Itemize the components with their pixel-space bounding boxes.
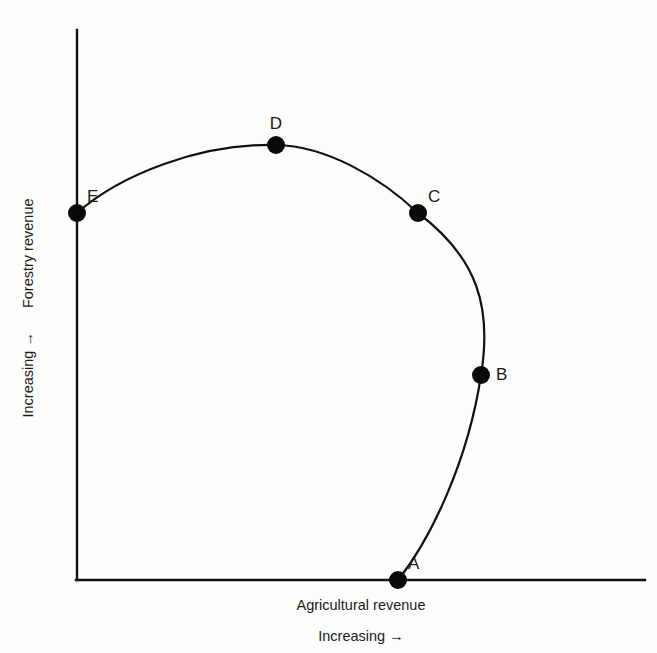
data-point-a bbox=[389, 571, 407, 589]
data-point-label-d: D bbox=[270, 114, 282, 133]
data-point-b bbox=[472, 366, 490, 384]
data-point-c bbox=[409, 204, 427, 222]
data-point-e bbox=[68, 204, 86, 222]
chart-figure: ABCDE bbox=[0, 0, 657, 653]
data-point-label-e: E bbox=[87, 187, 99, 206]
data-point-label-b: B bbox=[496, 365, 508, 384]
data-point-label-c: C bbox=[428, 187, 440, 206]
data-point-label-a: A bbox=[408, 554, 420, 573]
data-point-d bbox=[267, 136, 285, 154]
chart-background bbox=[0, 0, 657, 653]
